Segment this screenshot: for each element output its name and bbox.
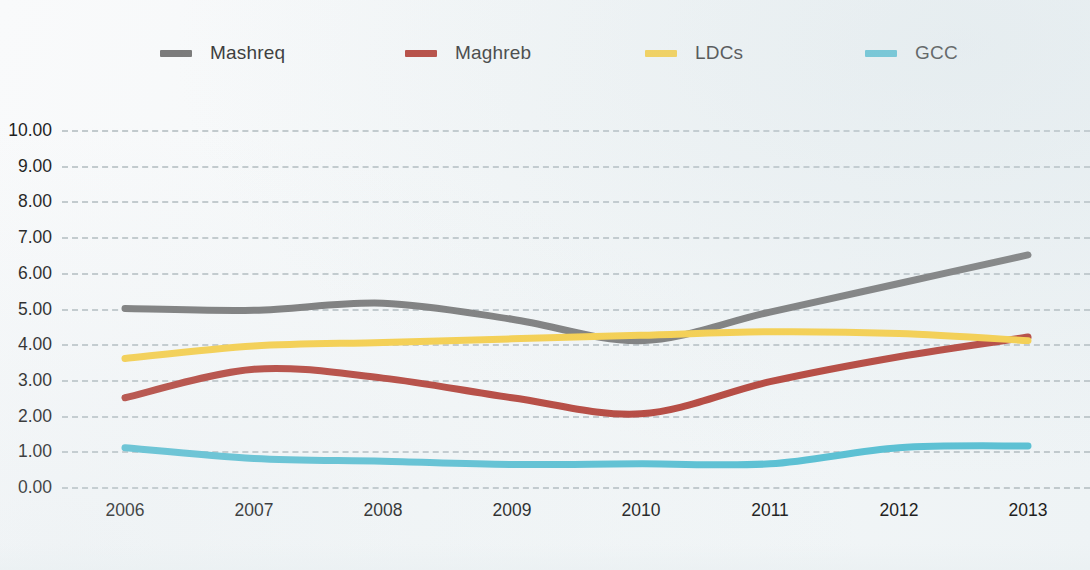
x-axis-tick-label: 2009 xyxy=(493,500,532,521)
legend-item-maghreb[interactable]: Maghreb xyxy=(405,38,531,68)
x-axis-labels: 20062007200820092010201120122013 xyxy=(0,500,1090,530)
line-chart: MashreqMaghrebLDCsGCC 0.001.002.003.004.… xyxy=(0,0,1090,570)
legend-item-ldcs[interactable]: LDCs xyxy=(645,38,743,68)
legend-swatch-icon xyxy=(405,50,437,57)
gridline xyxy=(62,487,1090,489)
y-axis-tick-label: 2.00 xyxy=(0,405,52,426)
legend-label: LDCs xyxy=(695,42,743,64)
series-line-mashreq xyxy=(125,255,1028,341)
y-axis-tick-label: 10.00 xyxy=(0,120,52,141)
chart-legend: MashreqMaghrebLDCsGCC xyxy=(0,38,1090,72)
x-axis-tick-label: 2011 xyxy=(751,500,789,521)
y-axis-tick-label: 5.00 xyxy=(0,298,52,319)
series-line-gcc xyxy=(125,446,1028,465)
series-lines xyxy=(62,130,1090,487)
x-axis-tick-label: 2008 xyxy=(364,500,403,521)
legend-item-mashreq[interactable]: Mashreq xyxy=(160,38,285,68)
y-axis-tick-label: 9.00 xyxy=(0,155,52,176)
legend-label: GCC xyxy=(915,42,958,64)
y-axis-tick-label: 7.00 xyxy=(0,227,52,248)
legend-swatch-icon xyxy=(160,50,192,57)
legend-swatch-icon xyxy=(865,50,897,57)
x-axis-tick-label: 2010 xyxy=(622,500,661,521)
y-axis-tick-label: 6.00 xyxy=(0,262,52,283)
legend-label: Mashreq xyxy=(210,42,285,64)
legend-label: Maghreb xyxy=(455,42,531,64)
y-axis-tick-label: 8.00 xyxy=(0,191,52,212)
y-axis-tick-label: 4.00 xyxy=(0,334,52,355)
legend-swatch-icon xyxy=(645,50,677,57)
page-bottom-edge xyxy=(0,544,1090,570)
x-axis-tick-label: 2007 xyxy=(235,500,274,521)
x-axis-tick-label: 2012 xyxy=(880,500,919,521)
x-axis-tick-label: 2006 xyxy=(106,500,145,521)
x-axis-tick-label: 2013 xyxy=(1009,500,1048,521)
y-axis-tick-label: 1.00 xyxy=(0,441,52,462)
plot-area xyxy=(62,130,1090,487)
legend-item-gcc[interactable]: GCC xyxy=(865,38,958,68)
y-axis-tick-label: 3.00 xyxy=(0,369,52,390)
y-axis-tick-label: 0.00 xyxy=(0,477,52,498)
